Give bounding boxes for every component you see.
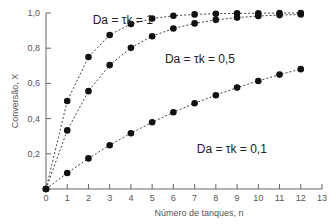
x-tick-label: 1: [65, 193, 70, 203]
series-line: [46, 13, 301, 189]
x-tick-label: 11: [275, 193, 284, 203]
series-annotation: Da = τk = 1: [93, 13, 153, 27]
data-point: [234, 14, 241, 21]
x-tick-label: 2: [86, 193, 91, 203]
data-point: [64, 170, 71, 177]
y-axis-label: Conversão, X: [10, 74, 20, 129]
x-tick-label: 4: [128, 193, 133, 203]
y-tick-label: 0,6: [27, 78, 40, 88]
data-point: [64, 98, 71, 105]
data-point: [170, 109, 177, 116]
data-point: [85, 54, 92, 61]
data-point: [106, 32, 113, 39]
data-point: [149, 119, 156, 126]
y-tick-label: 0,2: [27, 149, 40, 159]
x-tick-label: 3: [107, 193, 112, 203]
y-tick-label: 1,0: [27, 8, 40, 18]
data-point: [85, 155, 92, 162]
conversion-chart: 0,20,40,60,81,0012345678910111213Número …: [0, 0, 333, 224]
x-tick-label: 7: [192, 193, 197, 203]
x-tick-label: 5: [150, 193, 155, 203]
data-point: [276, 71, 283, 78]
x-tick-label: 10: [253, 193, 263, 203]
series-annotation: Da = τk = 0,1: [197, 142, 267, 156]
data-point: [106, 62, 113, 69]
data-point: [213, 17, 220, 24]
data-point: [276, 12, 283, 19]
data-point: [213, 92, 220, 99]
data-point: [297, 11, 304, 18]
data-point: [85, 88, 92, 95]
series-annotation: Da = τk = 0,5: [165, 52, 235, 66]
annotations: Da = τk = 1Da = τk = 0,5Da = τk = 0,1: [93, 13, 267, 155]
series-line: [46, 69, 301, 189]
data-point: [191, 11, 198, 18]
x-tick-label: 13: [317, 193, 327, 203]
x-tick-label: 8: [213, 193, 218, 203]
x-axis-label: Número de tanques, n: [154, 208, 243, 218]
data-point: [128, 130, 135, 137]
data-point: [213, 10, 220, 17]
data-point: [191, 100, 198, 107]
data-point: [297, 66, 304, 73]
data-point: [255, 78, 262, 85]
y-tick-label: 0,4: [27, 114, 40, 124]
data-point: [64, 127, 71, 134]
x-tick-label: 9: [235, 193, 240, 203]
series-line: [46, 14, 301, 189]
axes: 0,20,40,60,81,0012345678910111213Número …: [10, 8, 327, 218]
series-1: [43, 10, 304, 193]
data-point: [43, 186, 50, 193]
series-layer: [43, 10, 304, 193]
data-point: [170, 25, 177, 32]
data-point: [191, 20, 198, 27]
series-2: [43, 11, 304, 192]
x-tick-label: 0: [43, 193, 48, 203]
data-point: [170, 13, 177, 20]
data-point: [255, 13, 262, 20]
x-tick-label: 12: [296, 193, 306, 203]
data-point: [106, 142, 113, 149]
data-point: [149, 33, 156, 40]
series-3: [43, 66, 304, 192]
data-point: [128, 45, 135, 52]
data-point: [234, 84, 241, 91]
y-tick-label: 0,8: [27, 43, 40, 53]
x-tick-label: 6: [171, 193, 176, 203]
